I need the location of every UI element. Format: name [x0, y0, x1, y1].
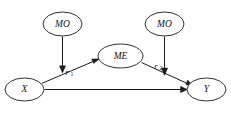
node-y: Y: [187, 78, 226, 101]
edge-label-r2: r 2: [154, 61, 162, 71]
node-mo-left: MO: [43, 12, 82, 36]
edge-x-to-y: [45, 86, 188, 93]
edge-me-to-y: [142, 63, 194, 87]
path-diagram-canvas: r 1 r 2 MO MO ME X Y: [0, 0, 231, 113]
node-mo-right-label: MO: [156, 19, 172, 29]
node-me-label: ME: [113, 51, 128, 61]
edge-x-to-y-arrowhead: [181, 86, 188, 93]
node-me: ME: [98, 44, 143, 68]
node-x-label: X: [21, 84, 29, 94]
edge-label-r1-subscript: 1: [71, 71, 74, 77]
node-mo-left-label: MO: [54, 19, 70, 29]
path-diagram-svg: r 1 r 2 MO MO ME X Y: [0, 0, 231, 113]
node-x: X: [5, 78, 44, 101]
node-mo-right: MO: [145, 12, 184, 36]
edge-label-r2-subscript: 2: [160, 65, 163, 71]
edge-x-to-me-arrowhead: [92, 59, 100, 64]
